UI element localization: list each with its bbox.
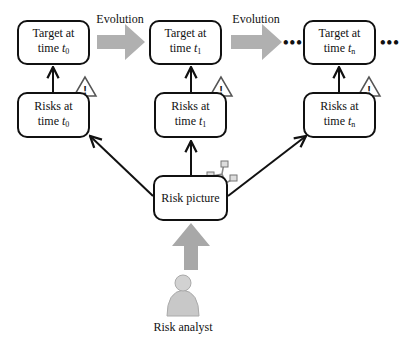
risk-analyst-label: Risk analyst [150, 320, 216, 335]
evolution-label-1: Evolution [95, 12, 145, 27]
target-t0-line1: Target at [33, 26, 75, 41]
risks-tn-line2: time tn [324, 114, 356, 132]
person-icon [167, 275, 199, 316]
risks-tn-line1: Risks at [320, 99, 358, 114]
ellipsis-2: ••• [380, 38, 400, 48]
target-t1-line2: time t1 [170, 41, 202, 59]
target-tn-line1: Target at [319, 26, 361, 41]
target-t1-line1: Target at [165, 26, 207, 41]
risks-t0-line2: time t0 [38, 114, 70, 132]
target-tn-line2: time tn [324, 41, 356, 59]
risks-t1-box: Risks at time t1 [154, 92, 227, 138]
evolution-arrow-2 [231, 24, 282, 60]
target-t0-box: Target at time t0 [17, 20, 90, 65]
risks-t0-line1: Risks at [34, 99, 72, 114]
risks-t0-box: Risks at time t0 [17, 92, 90, 138]
target-t1-box: Target at time t1 [149, 20, 222, 65]
risk-picture-label: Risk picture [161, 191, 219, 206]
ellipsis-1: ••• [283, 38, 303, 48]
evolution-label-2: Evolution [231, 12, 281, 27]
evolution-arrow-1 [97, 24, 145, 60]
risk-picture-box: Risk picture [153, 175, 228, 221]
analyst-arrow [172, 223, 210, 270]
risks-t1-line1: Risks at [171, 99, 209, 114]
target-tn-box: Target at time tn [303, 20, 376, 65]
target-t0-line2: time t0 [38, 41, 70, 59]
risks-t1-line2: time t1 [175, 114, 207, 132]
risks-tn-box: Risks at time tn [303, 92, 376, 138]
